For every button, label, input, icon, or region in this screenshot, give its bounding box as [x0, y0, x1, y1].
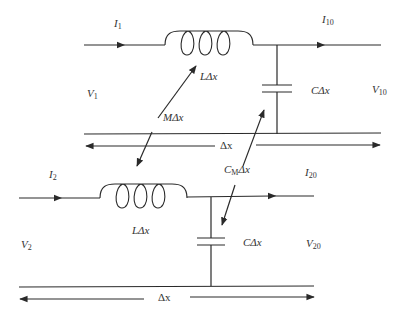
- circuit-drawing: [0, 0, 403, 317]
- line1-current-out-label: I10: [322, 14, 334, 27]
- line1-length-label: Δx: [220, 140, 233, 151]
- line2-voltage-in-label: V2: [21, 239, 32, 252]
- line1-voltage-in-label: V1: [87, 88, 98, 101]
- mutual-capacitance-arrow-up: [243, 110, 264, 166]
- mutual-inductance-label: MΔx: [163, 112, 184, 123]
- line2-capacitor-icon: [197, 197, 225, 286]
- line1-capacitance-label: CΔx: [311, 85, 330, 96]
- line2-capacitance-label: CΔx: [243, 237, 262, 248]
- mutual-capacitance-arrow-down: [222, 185, 235, 225]
- line1-capacitor-icon: [262, 45, 292, 134]
- line2-output-current-arrow: [187, 196, 272, 197]
- line1-voltage-out-label: V10: [372, 84, 387, 97]
- line1-return-rail: [84, 133, 381, 134]
- line2-inductance-label: LΔx: [132, 225, 149, 236]
- mutual-inductance-arrow-down: [137, 132, 152, 166]
- line2-current-in-label: I2: [49, 169, 57, 182]
- line2-current-out-label: I20: [305, 167, 317, 180]
- line1-current-in-label: I1: [114, 18, 122, 31]
- mutual-capacitance-label: CMΔx: [224, 164, 250, 177]
- line2-circuit: [19, 184, 314, 299]
- line2-voltage-out-label: V20: [306, 238, 321, 251]
- line1-inductance-label: LΔx: [200, 71, 217, 82]
- line1-circuit: [84, 31, 381, 146]
- coupled-line-diagram: I1 I10 V1 V10 LΔx CΔx Δx MΔx CMΔx I2 I20…: [0, 0, 403, 317]
- line1-inductor-icon: [165, 31, 253, 55]
- line2-return-rail: [19, 286, 314, 287]
- line2-length-label: Δx: [158, 292, 171, 303]
- line2-inductor-icon: [100, 184, 187, 208]
